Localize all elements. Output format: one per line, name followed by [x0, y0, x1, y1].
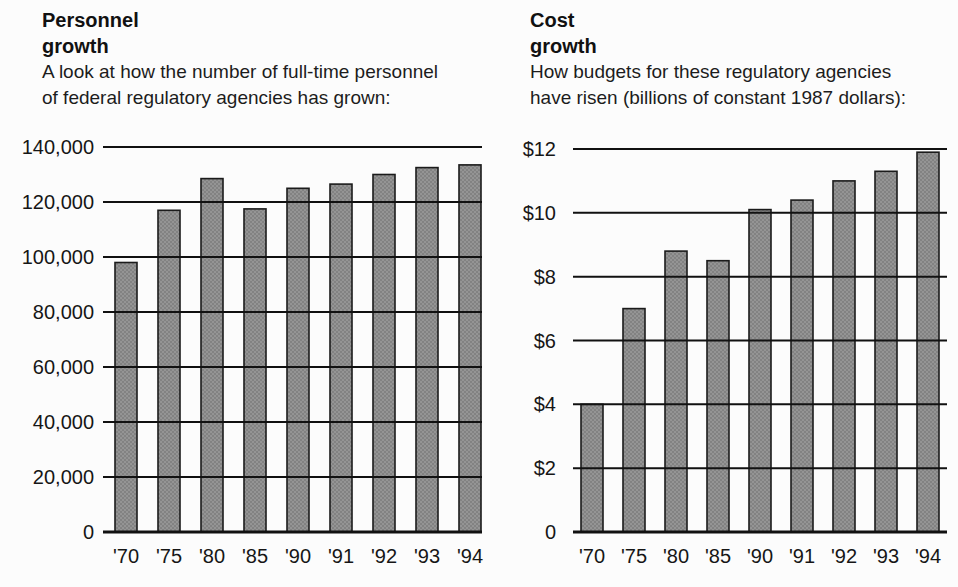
x-tick-label: '85: [705, 545, 731, 567]
bar-charts-canvas: 020,00040,00060,00080,000100,000120,0001…: [0, 135, 958, 587]
personnel-chart-subtitle: A look at how the number of full-time pe…: [42, 59, 438, 111]
personnel-chart-subtitle-line2: of federal regulatory agencies has grown…: [42, 85, 438, 111]
cost-bar-chart: 0$2$4$6$8$10$12'70'75'80'85'90'91'92'93'…: [523, 138, 947, 567]
y-tick-label: 20,000: [33, 466, 94, 488]
y-tick-label: 0: [83, 521, 94, 543]
cost-chart-title-line2: growth: [530, 33, 597, 59]
x-tick-label: '91: [789, 545, 815, 567]
y-tick-label: 80,000: [33, 301, 94, 323]
regulatory-agencies-figure: Personnel growth A look at how the numbe…: [0, 0, 958, 587]
bar-'75: [623, 309, 645, 532]
bar-'92: [373, 175, 395, 533]
x-tick-label: '91: [328, 545, 354, 567]
bar-'70: [115, 263, 137, 533]
personnel-chart-subtitle-line1: A look at how the number of full-time pe…: [42, 59, 438, 85]
y-tick-label: $4: [534, 393, 556, 415]
cost-chart-title: Cost growth: [530, 7, 597, 59]
y-tick-label: $10: [523, 202, 556, 224]
x-tick-label: '80: [663, 545, 689, 567]
x-tick-label: '93: [414, 545, 440, 567]
cost-chart-subtitle-line2: have risen (billions of constant 1987 do…: [530, 85, 906, 111]
bar-'85: [707, 261, 729, 532]
x-tick-label: '70: [113, 545, 139, 567]
y-tick-label: $12: [523, 138, 556, 160]
bar-'90: [749, 210, 771, 532]
x-tick-label: '90: [285, 545, 311, 567]
x-tick-label: '94: [915, 545, 941, 567]
bar-'91: [330, 184, 352, 532]
personnel-chart-title-line1: Personnel: [42, 7, 139, 33]
y-tick-label: 60,000: [33, 356, 94, 378]
y-tick-label: $2: [534, 457, 556, 479]
y-tick-label: $6: [534, 330, 556, 352]
x-tick-label: '70: [579, 545, 605, 567]
y-tick-label: 140,000: [22, 136, 94, 158]
y-tick-label: 40,000: [33, 411, 94, 433]
bar-'90: [287, 188, 309, 532]
y-tick-label: 0: [545, 521, 556, 543]
bar-'80: [201, 179, 223, 532]
cost-chart-subtitle-line1: How budgets for these regulatory agencie…: [530, 59, 906, 85]
x-tick-label: '94: [457, 545, 483, 567]
x-tick-label: '80: [199, 545, 225, 567]
y-tick-label: 100,000: [22, 246, 94, 268]
y-tick-label: $8: [534, 266, 556, 288]
x-tick-label: '75: [621, 545, 647, 567]
x-tick-label: '93: [873, 545, 899, 567]
x-tick-label: '85: [242, 545, 268, 567]
cost-chart-title-line1: Cost: [530, 7, 597, 33]
bar-'93: [875, 171, 897, 532]
x-tick-label: '92: [371, 545, 397, 567]
bar-'94: [917, 152, 939, 532]
bar-'80: [665, 251, 687, 532]
personnel-chart-title-line2: growth: [42, 33, 139, 59]
y-tick-label: 120,000: [22, 191, 94, 213]
bar-'92: [833, 181, 855, 532]
x-tick-label: '90: [747, 545, 773, 567]
bar-'91: [791, 200, 813, 532]
x-tick-label: '75: [156, 545, 182, 567]
x-tick-label: '92: [831, 545, 857, 567]
personnel-bar-chart: 020,00040,00060,00080,000100,000120,0001…: [22, 136, 483, 567]
cost-chart-subtitle: How budgets for these regulatory agencie…: [530, 59, 906, 111]
personnel-chart-title: Personnel growth: [42, 7, 139, 59]
bar-'75: [158, 210, 180, 532]
